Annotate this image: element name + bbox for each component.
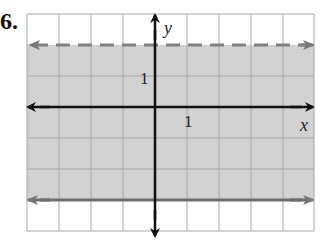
inequality-graph: y x 1 1: [0, 0, 322, 250]
y-axis-label: y: [162, 18, 172, 38]
y-tick-label: 1: [140, 69, 149, 88]
shaded-region: [27, 45, 314, 200]
x-axis-label: x: [299, 115, 308, 135]
x-tick-label: 1: [184, 112, 193, 131]
